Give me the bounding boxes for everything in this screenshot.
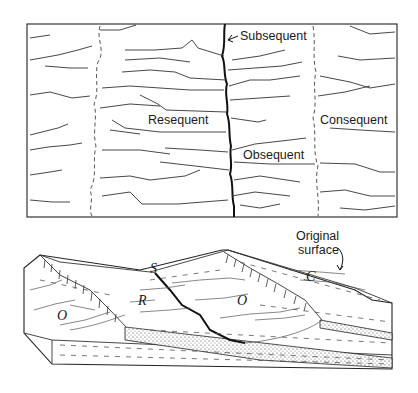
- label-s: S: [150, 261, 157, 276]
- drainage-diagram: Subsequent Resequent Obsequent Consequen…: [0, 0, 418, 393]
- label-obsequent: Obsequent: [243, 148, 305, 162]
- block-diagram: S R O O C Original surface: [24, 229, 392, 369]
- label-o-left: O: [57, 308, 67, 323]
- label-original-surface-2: surface: [298, 243, 339, 257]
- label-r: R: [137, 293, 147, 308]
- plan-view: Subsequent Resequent Obsequent Consequen…: [27, 24, 397, 217]
- subsequent-stream: [222, 24, 234, 217]
- label-original-surface-1: Original: [296, 229, 339, 243]
- label-o-right: O: [237, 293, 247, 308]
- label-subsequent: Subsequent: [240, 29, 307, 43]
- left-divide: [90, 26, 101, 216]
- label-c: C: [306, 269, 316, 284]
- right-divide: [313, 26, 318, 216]
- label-resequent: Resequent: [148, 113, 209, 127]
- label-consequent: Consequent: [320, 113, 388, 127]
